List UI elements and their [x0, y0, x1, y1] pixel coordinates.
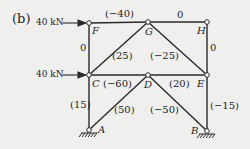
node-label-G: G	[145, 27, 153, 37]
arrowhead-icon	[78, 20, 86, 26]
joint-A	[87, 128, 92, 133]
node-label-B: B	[191, 126, 198, 136]
force-FG: (−40)	[105, 9, 134, 19]
node-label-D: D	[144, 80, 152, 90]
load-label-F: 40 kN	[36, 18, 64, 27]
force-GH: 0	[177, 10, 183, 20]
force-CD: (−60)	[103, 79, 132, 89]
force-EB: (−15)	[210, 101, 239, 111]
support-A	[79, 133, 97, 137]
joint-D	[146, 73, 151, 78]
node-label-A: A	[98, 125, 105, 135]
joint-G	[146, 20, 151, 25]
force-GE: (−25)	[150, 51, 179, 61]
node-label-H: H	[197, 26, 206, 36]
node-label-C: C	[92, 79, 100, 89]
force-AD: (50)	[114, 105, 135, 115]
joint-H	[205, 20, 210, 25]
force-DE: (20)	[169, 79, 190, 89]
node-label-E: E	[197, 79, 204, 89]
joint-B	[205, 129, 210, 134]
joint-F	[87, 21, 92, 26]
arrowhead-icon	[78, 72, 86, 78]
force-HE: 0	[210, 43, 216, 53]
force-CG: (25)	[112, 51, 133, 61]
node-label-F: F	[92, 26, 99, 36]
joint-E	[205, 73, 210, 78]
force-DB: (−50)	[150, 105, 179, 115]
member-FG	[89, 22, 148, 23]
force-CA: (15)	[70, 100, 91, 110]
force-FC: 0	[80, 43, 86, 53]
joint-C	[87, 73, 92, 78]
part-label: (b)	[12, 12, 30, 25]
support-B	[197, 134, 215, 138]
load-label-C: 40 kN	[36, 70, 64, 79]
